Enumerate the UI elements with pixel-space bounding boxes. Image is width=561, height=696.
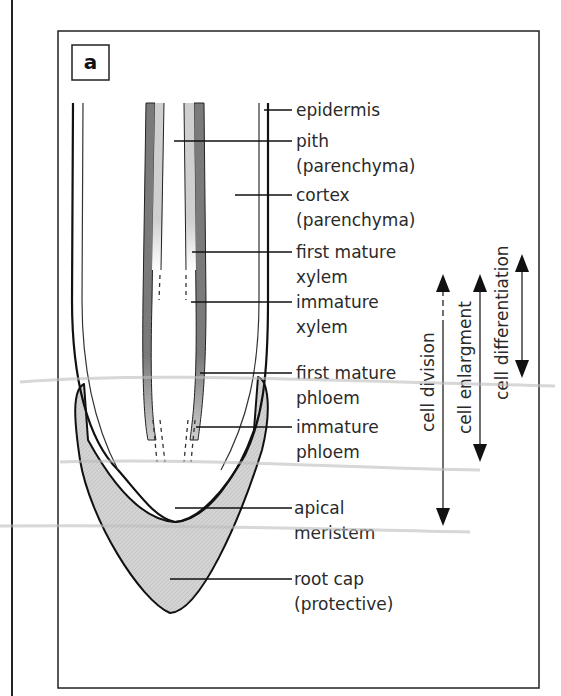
panel-label-box: a	[72, 45, 109, 80]
root-cap-shape	[75, 377, 268, 613]
label-epidermis: epidermis	[296, 100, 380, 120]
zone-arrow-cell-differentiation: cell differentiation	[492, 245, 529, 400]
panel-letter: a	[84, 50, 98, 74]
label-immature-xylem: immaturexylem	[296, 292, 379, 337]
label-first-mature-phloem: first maturephloem	[296, 363, 396, 408]
labels: epidermis pith(parenchyma) cortex(parenc…	[294, 100, 415, 614]
epidermis-outline	[72, 103, 268, 522]
zone-arrow-cell-enlargment: cell enlargment	[455, 274, 487, 462]
label-root-cap: root cap(protective)	[294, 569, 393, 614]
right-vascular-strand	[184, 103, 206, 462]
cortex-inner-line-right	[221, 103, 259, 470]
root-tip-diagram: a epidermis pith(parench	[0, 0, 561, 696]
zone-arrow-cell-division: cell division	[418, 274, 450, 526]
zone-label-cell-enlargment: cell enlargment	[455, 301, 475, 434]
label-apical-meristem: apicalmeristem	[294, 498, 375, 543]
label-cortex: cortex(parenchyma)	[296, 185, 415, 230]
left-vascular-strand	[143, 103, 165, 462]
zone-label-cell-differentiation: cell differentiation	[492, 245, 512, 400]
label-pith: pith(parenchyma)	[296, 131, 415, 176]
label-first-mature-xylem: first maturexylem	[296, 242, 396, 287]
label-immature-phloem: immaturephloem	[296, 417, 379, 462]
